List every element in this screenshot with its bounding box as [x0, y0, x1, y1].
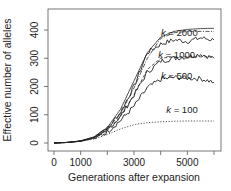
series-annotation: k = 1000: [158, 49, 195, 60]
y-tick-label: 300: [29, 49, 40, 66]
series-annotation: k = 2000: [161, 27, 198, 38]
y-tick-label: 200: [29, 78, 40, 95]
series-annotation: k = 100: [166, 104, 197, 115]
y-tick-label: 100: [29, 106, 40, 123]
x-axis: 0100030005000: [51, 151, 214, 168]
chart: 0100030005000 0100200300400 k = 2000k = …: [0, 0, 231, 191]
x-tick-label: 3000: [123, 157, 146, 168]
x-tick-label: 1000: [70, 157, 93, 168]
series-line: [54, 54, 214, 143]
y-tick-label: 0: [29, 140, 40, 146]
x-tick-label: 5000: [176, 157, 199, 168]
series-group: [54, 28, 214, 143]
series-line: [54, 121, 214, 143]
series-line: [54, 31, 214, 143]
x-tick-label: 0: [51, 157, 57, 168]
y-tick-label: 400: [29, 21, 40, 38]
series-annotation: k = 500: [161, 70, 192, 81]
y-axis: 0100200300400: [29, 21, 48, 146]
y-axis-title: Effective number of alleles: [1, 19, 13, 142]
x-axis-title: Generations after expansion: [68, 171, 200, 183]
series-line: [54, 28, 214, 143]
